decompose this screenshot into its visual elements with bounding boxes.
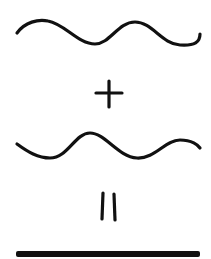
wave-2 bbox=[17, 133, 200, 158]
wave-1 bbox=[17, 20, 200, 45]
flat-line bbox=[16, 251, 200, 257]
plus-sign bbox=[96, 81, 122, 107]
interference-diagram bbox=[0, 0, 211, 259]
equals-sign bbox=[102, 193, 115, 220]
